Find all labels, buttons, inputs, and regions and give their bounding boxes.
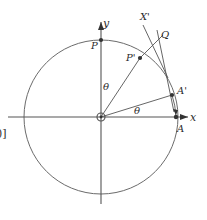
point-label-Pprime: P' [126,53,135,63]
edge-text-fragment: 0)] [0,128,7,139]
axis-label-x: x [190,112,196,123]
axis-label-y: y [103,18,109,29]
point-marker-Aprime [170,93,174,97]
line-Q-to-Aprime [157,30,174,112]
point-label-P: P [91,41,98,51]
origin-dot [100,116,103,119]
geometry-figure [0,0,207,220]
point-label-Q: Q [161,30,169,40]
segment-Pprime-to-Q [140,35,163,58]
point-marker-P [99,38,103,42]
angle-label-theta-lower: θ [134,106,140,116]
point-marker-Pprime [138,56,142,60]
point-label-Xprime: X' [140,12,150,22]
point-marker-A [174,115,178,119]
angle-label-theta-upper: θ [103,82,109,92]
point-label-A: A [177,124,184,134]
x-axis-arrow-icon [180,114,188,120]
point-label-Aprime: A' [177,86,187,96]
